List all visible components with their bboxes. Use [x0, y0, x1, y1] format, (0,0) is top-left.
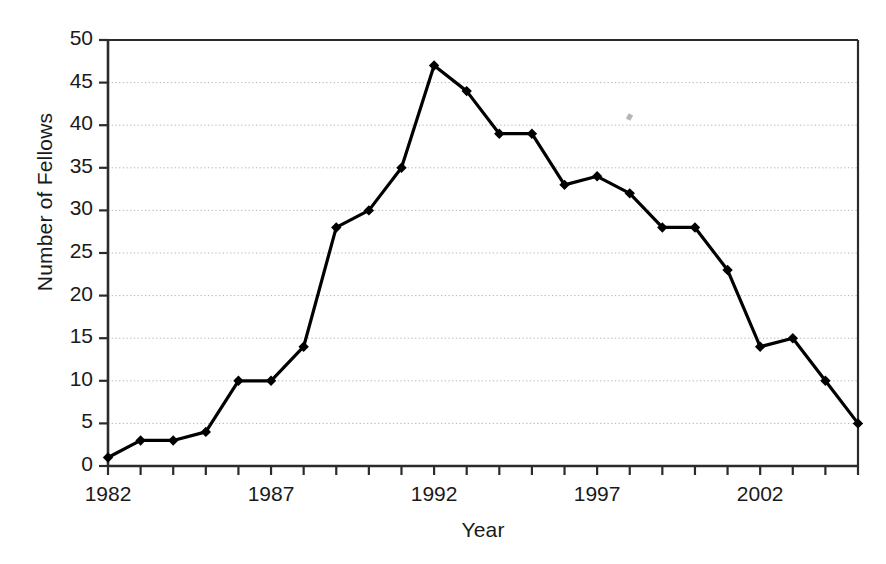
data-series-line: [108, 66, 858, 458]
plot-area: [0, 0, 886, 564]
data-point-marker: [168, 435, 178, 445]
data-point-marker: [755, 342, 765, 352]
line-chart: Number of Fellows Year 05101520253035404…: [0, 0, 886, 564]
